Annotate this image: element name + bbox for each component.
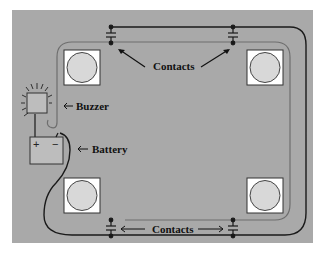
pad-bottom-right <box>247 178 283 213</box>
circuit-diagram: + − Contacts Buzzer Battery Contacts <box>0 0 327 262</box>
battery-label: Battery <box>92 143 128 155</box>
battery-positive-terminal: + <box>33 138 39 150</box>
buzzer-label: Buzzer <box>76 100 109 112</box>
pad-top-right <box>247 50 283 85</box>
contacts-top-label: Contacts <box>153 60 195 72</box>
pad-bottom-left <box>64 178 100 213</box>
battery-icon: + − <box>30 133 63 164</box>
contacts-bottom-label: Contacts <box>152 223 194 235</box>
pad-top-left <box>64 50 100 85</box>
battery-negative-terminal: − <box>52 138 58 150</box>
